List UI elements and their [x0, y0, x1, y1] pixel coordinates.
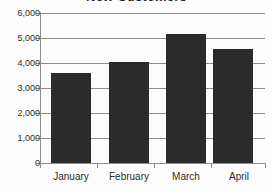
y-axis-label-4000: 4,000: [6, 59, 40, 68]
y-axis-label-6000: 6,000: [6, 9, 40, 18]
y-axis-label-2000: 2,000: [6, 109, 40, 118]
y-axis-label-0: 0: [6, 159, 40, 168]
x-axis-label-february: February: [109, 171, 149, 182]
plot-area: [40, 13, 265, 163]
x-tick-mark: [40, 163, 41, 168]
x-tick-mark: [97, 163, 98, 168]
chart-title: New Customers: [0, 0, 273, 4]
gridline-baseline-0: [40, 163, 265, 164]
bar-january: [51, 73, 91, 163]
gridline-6000: [40, 13, 265, 14]
gridline-5000: [40, 38, 265, 39]
y-axis-label-3000: 3,000: [6, 84, 40, 93]
x-axis-label-january: January: [53, 171, 89, 182]
y-axis-label-1000: 1,000: [6, 134, 40, 143]
x-axis-label-march: March: [172, 171, 200, 182]
bar-march: [166, 34, 206, 164]
y-axis-label-5000: 5,000: [6, 34, 40, 43]
bar-february: [109, 62, 149, 163]
x-tick-mark: [265, 163, 266, 168]
x-axis-label-april: April: [229, 171, 249, 182]
y-axis: 6,000 5,000 4,000 3,000 2,000 1,000 0: [0, 0, 40, 194]
x-tick-mark: [211, 163, 212, 168]
chart-screenshot: New Customers 6,000 5,000 4,000 3,000 2,…: [0, 0, 273, 194]
x-tick-mark: [154, 163, 155, 168]
bar-april: [213, 49, 253, 163]
